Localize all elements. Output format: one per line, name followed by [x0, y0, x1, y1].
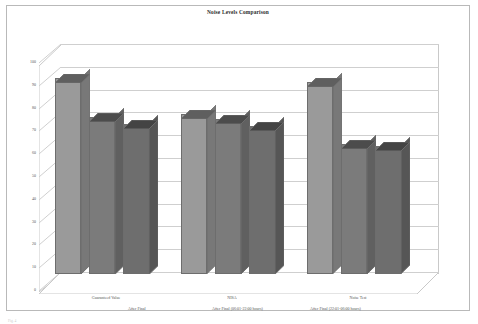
y-tick-label: 50 [32, 174, 36, 178]
bar-top-face [307, 73, 342, 82]
y-tick-label: 80 [32, 106, 36, 110]
bar [123, 106, 158, 274]
y-tick-label: 20 [32, 242, 36, 246]
chart-title: Noise Levels Comparison [7, 9, 469, 15]
x-axis-label: Noise Test [350, 296, 367, 300]
bar-side-face [149, 115, 158, 274]
bar [307, 64, 342, 274]
bar-front-face [215, 119, 241, 274]
bar-front-face [341, 144, 367, 274]
y-tick-label: 40 [32, 197, 36, 201]
bar [249, 108, 284, 274]
gridline [61, 44, 439, 45]
chart-frame: Noise Levels Comparison 1009080706050403… [6, 5, 470, 311]
plot-area: 1009080706050403020100 [39, 44, 439, 292]
x-axis-label: NISA [227, 296, 236, 300]
axis-floor [39, 272, 439, 294]
bar-front-face [123, 124, 149, 274]
bar [181, 96, 216, 274]
bar-top-face [89, 108, 124, 117]
bar-top-face [123, 115, 158, 124]
gridline [61, 90, 439, 91]
legend: After FinalAfter Final (06:01-22:00 hour… [0, 303, 478, 317]
bar-front-face [55, 78, 81, 274]
bar-front-face [375, 146, 401, 274]
bar-top-face [341, 135, 376, 144]
legend-item: After Final [128, 307, 146, 311]
bar [89, 99, 124, 274]
bar-top-face [55, 69, 90, 78]
bar [215, 101, 250, 274]
y-tick-label: 10 [32, 265, 36, 269]
bar-top-face [181, 105, 216, 114]
bar-top-face [249, 117, 284, 126]
y-tick-label: 60 [32, 151, 36, 155]
bar [55, 60, 90, 274]
legend-item: After Final (22:01-06:00 hours) [310, 307, 361, 311]
bar [341, 126, 376, 274]
y-tick-label: 0 [34, 288, 36, 292]
bar-front-face [307, 82, 333, 274]
bar-front-face [249, 126, 275, 274]
bar-side-face [275, 117, 284, 274]
y-tick-label: 100 [30, 60, 36, 64]
bar-front-face [89, 117, 115, 274]
legend-item: After Final (06:01-22:00 hours) [212, 307, 263, 311]
bar [375, 128, 410, 274]
figure-footnote: Fig. 4 [8, 319, 16, 323]
y-tick-label: 70 [32, 128, 36, 132]
y-tick-label: 30 [32, 220, 36, 224]
bar-front-face [181, 114, 207, 274]
bar-top-face [215, 110, 250, 119]
y-tick-label: 90 [32, 83, 36, 87]
gridline [61, 67, 439, 68]
x-axis-label: Guaranteed Value [92, 296, 120, 300]
bar-top-face [375, 137, 410, 146]
bar-side-face [401, 137, 410, 274]
